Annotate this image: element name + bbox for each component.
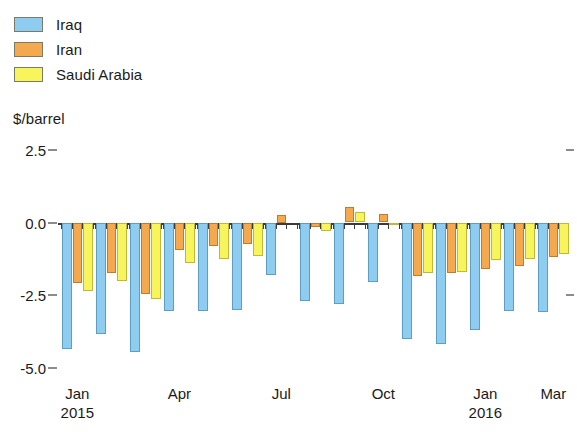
y-tick-mark-right-2 bbox=[566, 295, 574, 296]
bar-iran-5 bbox=[243, 223, 253, 245]
y-tick-label-3: -5.0 bbox=[2, 359, 46, 376]
bar-saudi-1 bbox=[117, 223, 127, 281]
bar-iran-3 bbox=[175, 223, 185, 251]
x-minor-tick bbox=[263, 224, 264, 229]
plot-area: 2.50.0-2.5-5.0Jan 2015AprJulOctJan 2016M… bbox=[0, 0, 577, 432]
bar-iran-14 bbox=[549, 223, 559, 258]
bar-iraq-10 bbox=[402, 223, 412, 339]
y-tick-label-2: -2.5 bbox=[2, 287, 46, 304]
bar-iran-10 bbox=[413, 223, 423, 277]
bar-saudi-11 bbox=[457, 223, 467, 272]
y-tick-mark-3 bbox=[48, 367, 57, 368]
x-minor-tick bbox=[297, 224, 298, 229]
y-tick-mark-2 bbox=[48, 295, 57, 296]
chart-figure: Iraq Iran Saudi Arabia $/barrel 2.50.0-2… bbox=[0, 0, 577, 432]
x-minor-tick bbox=[535, 224, 536, 229]
x-minor-tick bbox=[127, 224, 128, 229]
bar-iran-4 bbox=[209, 223, 219, 246]
bar-saudi-9 bbox=[389, 223, 399, 225]
x-minor-tick bbox=[378, 224, 379, 229]
bar-iraq-7 bbox=[300, 223, 310, 301]
bar-iran-11 bbox=[447, 223, 457, 274]
x-minor-tick bbox=[93, 224, 94, 229]
bar-iran-1 bbox=[107, 223, 117, 274]
x-tick-label-3: Oct bbox=[343, 384, 423, 403]
x-tick-label-2: Jul bbox=[241, 384, 321, 403]
x-minor-tick bbox=[467, 224, 468, 229]
bar-saudi-3 bbox=[185, 223, 195, 264]
bar-iraq-2 bbox=[130, 223, 140, 352]
x-minor-tick bbox=[399, 224, 400, 229]
bar-iraq-1 bbox=[96, 223, 106, 335]
x-minor-tick bbox=[229, 224, 230, 229]
bar-iran-6 bbox=[277, 215, 287, 222]
x-minor-tick bbox=[501, 224, 502, 229]
bar-saudi-12 bbox=[491, 223, 501, 261]
bar-iran-8 bbox=[345, 207, 355, 223]
bar-saudi-2 bbox=[151, 223, 161, 300]
bar-saudi-14 bbox=[559, 223, 569, 255]
bar-saudi-4 bbox=[219, 223, 229, 259]
bar-iran-0 bbox=[73, 223, 83, 284]
y-tick-mark-right-0 bbox=[566, 150, 574, 151]
y-tick-mark-0 bbox=[48, 150, 57, 151]
bar-iraq-13 bbox=[504, 223, 514, 311]
bar-iraq-11 bbox=[436, 223, 446, 345]
x-minor-tick bbox=[276, 224, 277, 229]
bar-saudi-13 bbox=[525, 223, 535, 259]
y-tick-mark-1 bbox=[48, 222, 57, 223]
x-minor-tick bbox=[344, 224, 345, 229]
bar-saudi-7 bbox=[321, 223, 331, 232]
bar-saudi-5 bbox=[253, 223, 263, 256]
bar-saudi-10 bbox=[423, 223, 433, 274]
y-tick-label-1: 0.0 bbox=[2, 214, 46, 231]
bar-iran-2 bbox=[141, 223, 151, 294]
x-minor-tick bbox=[195, 224, 196, 229]
x-minor-tick bbox=[433, 224, 434, 229]
x-tick-label-1: Apr bbox=[139, 384, 219, 403]
bar-iraq-8 bbox=[334, 223, 344, 304]
bar-iraq-12 bbox=[470, 223, 480, 330]
bar-iran-9 bbox=[379, 214, 389, 223]
bar-iraq-5 bbox=[232, 223, 242, 310]
bar-saudi-8 bbox=[355, 212, 365, 222]
bar-iran-7 bbox=[311, 223, 321, 227]
x-minor-tick bbox=[161, 224, 162, 229]
bar-iraq-9 bbox=[368, 223, 378, 282]
x-minor-tick bbox=[331, 224, 332, 229]
x-tick-label-5: Mar bbox=[513, 384, 577, 403]
bar-iraq-4 bbox=[198, 223, 208, 311]
bar-iraq-3 bbox=[164, 223, 174, 311]
bar-iraq-0 bbox=[62, 223, 72, 349]
x-minor-tick bbox=[354, 224, 355, 229]
x-tick-label-0: Jan 2015 bbox=[37, 384, 117, 422]
x-minor-tick bbox=[365, 224, 366, 229]
bar-iran-12 bbox=[481, 223, 491, 269]
bar-iran-13 bbox=[515, 223, 525, 267]
bar-iraq-14 bbox=[538, 223, 548, 313]
y-tick-label-0: 2.5 bbox=[2, 142, 46, 159]
bar-saudi-0 bbox=[83, 223, 93, 291]
bar-iraq-6 bbox=[266, 223, 276, 275]
x-minor-tick bbox=[286, 224, 287, 229]
